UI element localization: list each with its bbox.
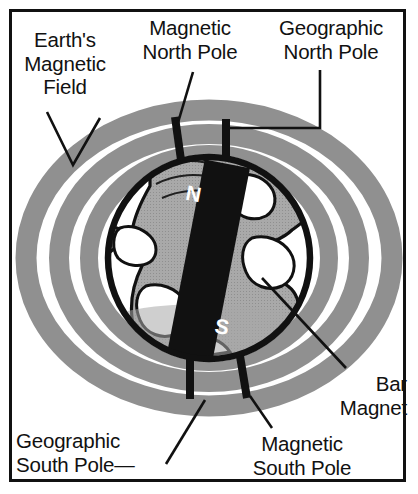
- diagram-frame-border: [9, 9, 406, 482]
- earth-magnetic-field-diagram: N S Earth's Magnetic Field Magnetic Nort…: [0, 0, 418, 494]
